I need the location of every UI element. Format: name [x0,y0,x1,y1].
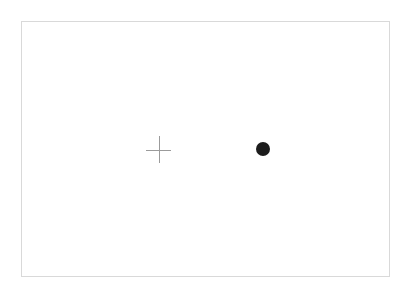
stimulus-canvas: display frame fixation cross target dot [0,0,414,296]
frame-label: display frame [22,22,23,23]
stimulus-frame: display frame [21,21,390,277]
fixation-cross-label: fixation cross [146,136,147,137]
target-dot-icon: target dot [256,142,270,156]
fixation-cross-vertical-arm [159,136,160,163]
fixation-cross-icon: fixation cross [146,136,171,163]
